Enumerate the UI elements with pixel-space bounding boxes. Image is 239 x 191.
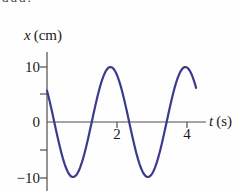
y-axis-variable: x bbox=[24, 27, 31, 43]
shm-position-time-figure: ddd. x(cm) t(s) 10 0 −10 2 4 bbox=[0, 0, 239, 191]
y-axis-label: x(cm) bbox=[24, 27, 62, 43]
y-tick-label-10: 10 bbox=[14, 59, 40, 75]
x-axis-label: t(s) bbox=[209, 113, 232, 129]
y-axis-unit: (cm) bbox=[34, 27, 62, 43]
y-tick-label-minus10: −10 bbox=[8, 170, 40, 186]
y-tick-label-0: 0 bbox=[14, 114, 40, 130]
x-tick-label-2: 2 bbox=[111, 126, 123, 142]
x-tick-label-4: 4 bbox=[181, 126, 193, 142]
x-axis-variable: t bbox=[209, 113, 213, 129]
x-axis-unit: (s) bbox=[216, 113, 232, 129]
